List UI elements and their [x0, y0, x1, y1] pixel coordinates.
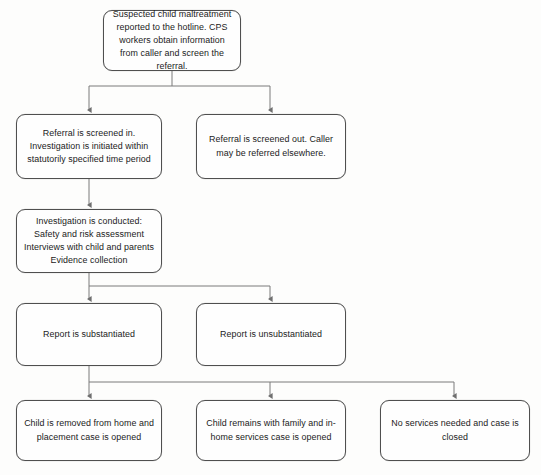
node-report-unsubstantiated-label: Report is unsubstantiated: [204, 328, 338, 341]
node-screened-in-label: Referral is screened in. Investigation i…: [24, 127, 154, 167]
node-child-removed-label: Child is removed from home and placement…: [24, 417, 154, 443]
node-report-intake-label: Suspected child maltreatment reported to…: [111, 8, 233, 74]
node-in-home-services-label: Child remains with family and in-home se…: [204, 417, 338, 443]
node-screened-in: Referral is screened in. Investigation i…: [16, 114, 162, 179]
node-screened-out-label: Referral is screened out. Caller may be …: [204, 133, 338, 159]
node-in-home-services: Child remains with family and in-home se…: [196, 400, 346, 461]
node-case-closed-label: No services needed and case is closed: [388, 417, 522, 443]
node-child-removed: Child is removed from home and placement…: [16, 400, 162, 461]
node-screened-out: Referral is screened out. Caller may be …: [196, 114, 346, 179]
node-report-intake: Suspected child maltreatment reported to…: [103, 10, 241, 71]
node-investigation-label: Investigation is conducted: Safety and r…: [24, 215, 154, 268]
node-investigation: Investigation is conducted: Safety and r…: [16, 209, 162, 273]
node-report-substantiated: Report is substantiated: [16, 303, 162, 366]
node-report-substantiated-label: Report is substantiated: [24, 328, 154, 341]
node-case-closed: No services needed and case is closed: [380, 400, 530, 461]
node-report-unsubstantiated: Report is unsubstantiated: [196, 303, 346, 366]
flowchart-page: Suspected child maltreatment reported to…: [0, 0, 541, 475]
